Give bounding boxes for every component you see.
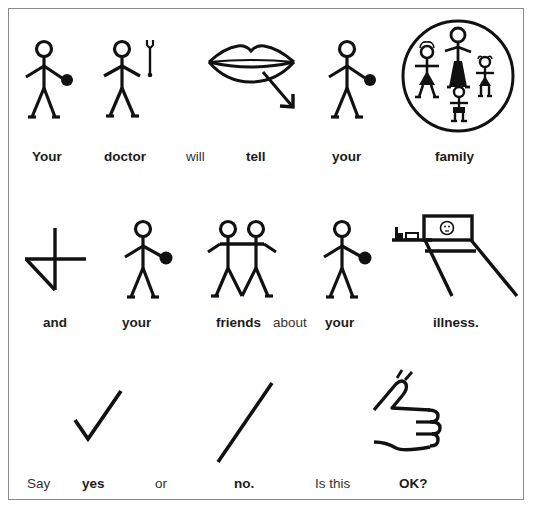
word-illness: illness.: [433, 315, 479, 331]
and-plus-triangle-icon: [22, 226, 88, 298]
doctor-stethoscope-icon: [100, 36, 162, 122]
word-and: and: [43, 315, 67, 331]
word-your: Your: [32, 149, 62, 165]
check-mark-icon: [71, 387, 127, 447]
person-pointing-self-icon: [22, 38, 72, 124]
word-your: your: [332, 149, 361, 165]
word-about: about: [273, 315, 307, 331]
slash-no-icon: [214, 380, 276, 466]
word-yes: yes: [82, 476, 105, 492]
lips-speaking-arrow-icon: [206, 42, 300, 114]
person-pointing-self-icon: [318, 218, 372, 304]
word-is-this: Is this: [315, 476, 350, 492]
word-tell: tell: [246, 149, 266, 165]
person-pointing-self-icon: [325, 38, 375, 124]
word-say: Say: [27, 476, 50, 492]
family-circle-icon: [399, 17, 517, 135]
word-your: your: [325, 315, 354, 331]
thumbs-up-icon: [372, 364, 456, 456]
word-or: or: [155, 476, 167, 492]
word-your: your: [122, 315, 151, 331]
word-ok: OK?: [399, 476, 428, 492]
sick-person-in-bed-icon: [390, 214, 522, 302]
word-no: no.: [234, 476, 254, 492]
word-friends: friends: [216, 315, 261, 331]
word-family: family: [435, 149, 474, 165]
two-friends-arms-linked-icon: [206, 218, 278, 302]
person-pointing-self-icon: [119, 218, 173, 304]
word-will: will: [186, 149, 205, 165]
word-doctor: doctor: [104, 149, 146, 165]
